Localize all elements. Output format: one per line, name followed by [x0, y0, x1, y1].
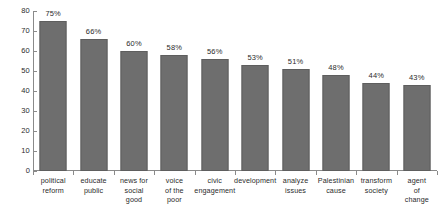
x-category-label-line: political: [30, 176, 76, 186]
x-category-label-line: development: [232, 176, 278, 186]
bar-group: 51%analyzeissues: [275, 0, 315, 214]
bar-value-label: 66%: [86, 27, 102, 36]
x-category-label: Palestiniancause: [313, 176, 359, 195]
bars-layer: 75%politicalreform66%educatepublic60%new…: [0, 0, 443, 214]
x-category-label-line: society: [353, 186, 399, 196]
x-category-label: agentofchange: [394, 176, 440, 205]
bar: [403, 85, 430, 171]
x-category-label: development: [232, 176, 278, 186]
x-category-label-line: transform: [353, 176, 399, 186]
x-category-label-line: poor: [151, 195, 197, 205]
bar-group: 60%news forsocialgood: [114, 0, 154, 214]
bar-value-label: 53%: [247, 53, 263, 62]
x-category-label-line: of the: [151, 186, 197, 196]
bar-value-label: 44%: [369, 71, 385, 80]
x-category-label-line: civic: [192, 176, 238, 186]
x-category-label: educatepublic: [71, 176, 117, 195]
bar: [120, 51, 147, 171]
bar: [161, 55, 188, 171]
x-category-label-line: change: [394, 195, 440, 205]
x-category-label-line: social: [111, 186, 157, 196]
x-category-label-line: engagement: [192, 186, 238, 196]
x-category-label-line: news for: [111, 176, 157, 186]
x-category-label-line: analyze: [273, 176, 319, 186]
bar-group: 56%civicengagement: [195, 0, 235, 214]
bar-value-label: 75%: [45, 9, 61, 18]
x-category-label-line: good: [111, 195, 157, 205]
x-category-label-line: reform: [30, 186, 76, 196]
bar-group: 66%educatepublic: [73, 0, 113, 214]
bar-value-label: 43%: [409, 73, 425, 82]
bar-group: 44%transformsociety: [356, 0, 396, 214]
bar: [40, 21, 67, 171]
bar-group: 75%politicalreform: [33, 0, 73, 214]
bar: [363, 83, 390, 171]
bar-group: 58%voiceof thepoor: [154, 0, 194, 214]
bar-value-label: 60%: [126, 39, 142, 48]
bar-value-label: 48%: [328, 63, 344, 72]
bar: [322, 75, 349, 171]
bar-chart: 01020304050607080 75%politicalreform66%e…: [0, 0, 443, 214]
bar: [282, 69, 309, 171]
bar: [201, 59, 228, 171]
x-category-label-line: of: [394, 186, 440, 196]
x-category-label-line: cause: [313, 186, 359, 196]
x-category-label-line: voice: [151, 176, 197, 186]
x-category-label-line: Palestinian: [313, 176, 359, 186]
x-category-label-line: educate: [71, 176, 117, 186]
x-category-label-line: agent: [394, 176, 440, 186]
x-category-label: civicengagement: [192, 176, 238, 195]
x-category-label: voiceof thepoor: [151, 176, 197, 205]
x-category-label-line: issues: [273, 186, 319, 196]
bar-group: 43%agentofchange: [397, 0, 437, 214]
x-category-label: news forsocialgood: [111, 176, 157, 205]
x-category-label: politicalreform: [30, 176, 76, 195]
bar: [242, 65, 269, 171]
bar-value-label: 56%: [207, 47, 223, 56]
bar-group: 48%Palestiniancause: [316, 0, 356, 214]
bar: [80, 39, 107, 171]
x-category-label: analyzeissues: [273, 176, 319, 195]
x-category-label: transformsociety: [353, 176, 399, 195]
bar-value-label: 51%: [288, 57, 304, 66]
x-category-label-line: public: [71, 186, 117, 196]
bar-value-label: 58%: [167, 43, 183, 52]
bar-group: 53%development: [235, 0, 275, 214]
